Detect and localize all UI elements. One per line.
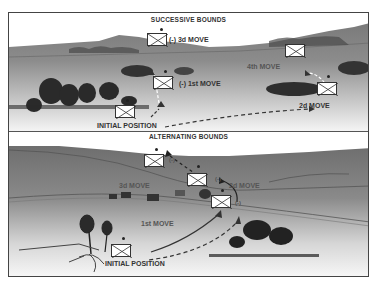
unit-symbol-initial-position xyxy=(111,244,131,257)
unit-size-dot xyxy=(155,148,158,151)
successive-terrain xyxy=(9,13,368,131)
unit-size-dot xyxy=(126,99,129,102)
label-2d-move: 2d MOVE xyxy=(299,102,330,109)
unit-size-dot xyxy=(197,165,200,168)
label-initial-position: INITIAL POSITION xyxy=(97,122,157,129)
label-minus: (-) xyxy=(169,157,175,163)
successive-bounds-panel: SUCCESSIVE BOUNDS (-) 3d MOVE (-) 1st MO… xyxy=(9,13,368,132)
label-3d-move: (-) 3d MOVE xyxy=(169,36,209,43)
unit-size-dot xyxy=(160,28,163,31)
unit-size-dot xyxy=(327,75,330,78)
label-1st-move: (-) 1st MOVE xyxy=(179,80,221,87)
unit-size-dot xyxy=(122,237,125,240)
successive-bounds-title: SUCCESSIVE BOUNDS xyxy=(9,16,368,23)
label-minus: (-) xyxy=(215,176,221,182)
unit-symbol-2d-move xyxy=(187,173,207,186)
unit-symbol-3d-move xyxy=(147,33,167,46)
alternating-bounds-panel: ALTERNATING BOUNDS (-) 3d MOVE (-) 2d MO… xyxy=(9,132,368,276)
unit-size-dot xyxy=(164,70,167,73)
label-minus: (-) xyxy=(235,200,241,206)
label-3d-move: 3d MOVE xyxy=(119,182,150,189)
alternating-terrain xyxy=(9,132,368,276)
unit-symbol-1st-move xyxy=(211,195,231,208)
unit-symbol-3d-move xyxy=(144,154,164,167)
unit-symbol-4th-move xyxy=(285,44,305,57)
unit-symbol-1st-move xyxy=(153,76,173,89)
label-4th-move: 4th MOVE xyxy=(247,63,280,70)
label-2d-move: 2d MOVE xyxy=(229,182,260,189)
unit-symbol-initial-position xyxy=(115,105,135,118)
label-1st-move: 1st MOVE xyxy=(141,220,174,227)
unit-size-dot xyxy=(221,189,224,192)
unit-symbol-2d-move xyxy=(317,82,337,95)
alternating-bounds-title: ALTERNATING BOUNDS xyxy=(9,133,368,140)
label-initial-position: INITIAL POSITION xyxy=(105,260,165,267)
diagram-frame: SUCCESSIVE BOUNDS (-) 3d MOVE (-) 1st MO… xyxy=(8,12,369,277)
